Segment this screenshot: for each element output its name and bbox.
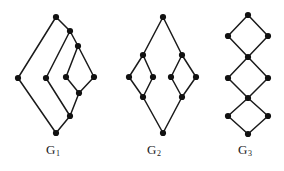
graph-vertex — [53, 14, 59, 20]
graph-vertex — [225, 113, 231, 119]
graph-vertex — [76, 90, 82, 96]
graph-vertex — [160, 14, 166, 20]
graph-label-g2-text: G — [147, 142, 157, 157]
graph-label-g1-text: G — [46, 142, 56, 157]
graph-label-g1-subscript: 1 — [56, 149, 60, 158]
graph-vertex — [43, 75, 49, 81]
graph-label-g3: G3 — [238, 142, 252, 158]
graph-vertex — [126, 74, 132, 80]
graph-label-g3-text: G — [238, 142, 248, 157]
graph-vertex — [63, 74, 69, 80]
graph-vertex — [225, 75, 231, 81]
graph-vertex — [193, 74, 199, 80]
graph-vertex — [67, 28, 73, 34]
graph-label-g2: G2 — [147, 142, 161, 158]
graph-vertex — [91, 74, 97, 80]
graph-vertex — [245, 95, 251, 101]
graph-label-g2-subscript: 2 — [157, 149, 161, 158]
graph-label-g3-subscript: 3 — [248, 149, 252, 158]
graph-vertex — [265, 33, 271, 39]
graph-vertex — [265, 75, 271, 81]
graph-vertex — [53, 130, 59, 136]
graph-vertex — [265, 113, 271, 119]
graph-vertex — [160, 130, 166, 136]
graph-vertex — [245, 12, 251, 18]
graph-vertex — [150, 74, 156, 80]
graph-vertex — [75, 43, 81, 49]
graph-vertex — [67, 113, 73, 119]
graph-vertex — [140, 52, 146, 58]
graph-vertex — [15, 75, 21, 81]
graph-label-g1: G1 — [46, 142, 60, 158]
graph-vertex — [168, 74, 174, 80]
graph-vertex — [245, 131, 251, 137]
graph-vertex — [179, 94, 185, 100]
graph-vertex — [179, 52, 185, 58]
graph-vertex — [245, 54, 251, 60]
graph-vertex — [140, 94, 146, 100]
graph-vertex — [225, 33, 231, 39]
